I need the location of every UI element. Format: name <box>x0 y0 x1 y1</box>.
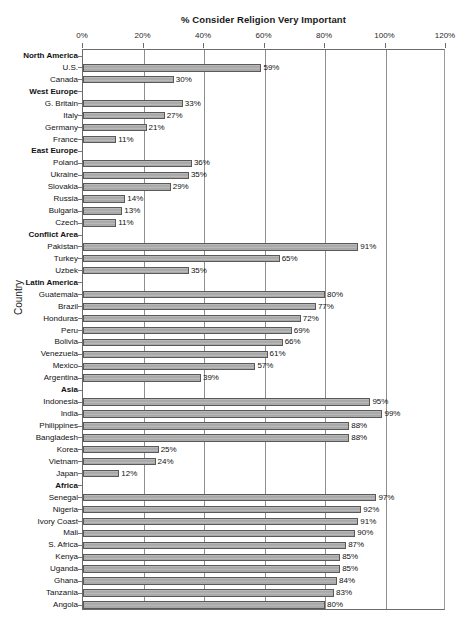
bar-value-label: 88% <box>351 420 367 431</box>
country-bar-row: Uzbek35% <box>0 264 467 276</box>
country-bar-row: India99% <box>0 407 467 419</box>
country-bar-row: Czech11% <box>0 216 467 228</box>
country-bar-row: Italy27% <box>0 109 467 121</box>
y-tick-mark <box>78 56 82 57</box>
bar-value-label: 35% <box>191 265 207 276</box>
country-bar-row: Mexico57% <box>0 359 467 371</box>
bar-value-label: 14% <box>127 193 143 204</box>
bar-value-label: 88% <box>351 432 367 443</box>
bar-value-label: 77% <box>318 301 334 312</box>
region-group-row: Latin America <box>0 276 467 288</box>
bar-value-label: 92% <box>363 504 379 515</box>
y-tick-mark <box>78 402 82 403</box>
bar-value-label: 91% <box>360 241 376 252</box>
bar <box>83 327 292 334</box>
bar-value-label: 30% <box>176 74 192 85</box>
x-tick-mark <box>385 43 386 48</box>
bar <box>83 530 355 537</box>
bar-value-label: 29% <box>173 181 189 192</box>
region-group-row: Africa <box>0 479 467 491</box>
y-tick-mark <box>78 485 82 486</box>
country-bar-row: Russia14% <box>0 192 467 204</box>
x-tick-mark <box>203 43 204 48</box>
country-label: Kenya <box>55 551 78 562</box>
country-label: Korea <box>57 444 78 455</box>
country-label: Philippines <box>39 420 78 431</box>
y-tick-mark <box>78 139 82 140</box>
bar <box>83 422 349 429</box>
country-bar-row: Mali90% <box>0 526 467 538</box>
bar-value-label: 11% <box>118 217 133 228</box>
bar-value-label: 21% <box>149 122 165 133</box>
y-tick-mark <box>78 426 82 427</box>
y-tick-mark <box>78 127 82 128</box>
country-label: Honduras <box>43 313 78 324</box>
y-tick-mark <box>78 342 82 343</box>
country-bar-row: G. Britain33% <box>0 97 467 109</box>
bar <box>83 554 340 561</box>
bar <box>83 542 346 549</box>
x-tick-mark <box>143 43 144 48</box>
y-tick-mark <box>78 318 82 319</box>
country-label: Guatemala <box>39 289 78 300</box>
y-tick-mark <box>78 67 82 68</box>
bar-value-label: 66% <box>285 336 301 347</box>
country-bar-row: Senegal97% <box>0 491 467 503</box>
bar <box>83 506 361 513</box>
country-label: Bulgaria <box>49 205 78 216</box>
country-bar-row: Kenya85% <box>0 550 467 562</box>
bar-value-label: 27% <box>167 110 183 121</box>
bar <box>83 183 171 190</box>
bar <box>83 255 280 262</box>
country-bar-row: Slovakia29% <box>0 180 467 192</box>
bar-value-label: 80% <box>327 289 343 300</box>
region-group-row: East Europe <box>0 144 467 156</box>
y-tick-mark <box>78 557 82 558</box>
bar <box>83 577 337 584</box>
y-tick-mark <box>78 545 82 546</box>
region-label: East Europe <box>31 145 78 156</box>
country-label: Ukraine <box>50 169 78 180</box>
bar <box>83 410 382 417</box>
y-tick-mark <box>78 533 82 534</box>
bar <box>83 446 159 453</box>
country-label: Senegal <box>49 492 78 503</box>
bar <box>83 100 183 107</box>
region-label: Africa <box>55 480 78 491</box>
x-tick-mark <box>82 43 83 48</box>
country-label: G. Britain <box>45 98 78 109</box>
bar <box>83 470 119 477</box>
bar <box>83 458 156 465</box>
bar-value-label: 69% <box>294 325 310 336</box>
chart-title: % Consider Religion Very Important <box>82 14 445 25</box>
y-tick-mark <box>78 270 82 271</box>
country-label: Tanzania <box>46 587 78 598</box>
country-label: France <box>53 134 78 145</box>
religion-importance-bar-chart: % Consider Religion Very Important Count… <box>0 0 467 624</box>
country-label: Angola <box>53 599 78 610</box>
bar-value-label: 80% <box>327 599 343 610</box>
y-tick-mark <box>78 258 82 259</box>
y-tick-mark <box>78 521 82 522</box>
country-bar-row: Korea25% <box>0 443 467 455</box>
region-label: Asia <box>61 384 78 395</box>
country-bar-row: Indonesia95% <box>0 395 467 407</box>
bar <box>83 243 358 250</box>
bar <box>83 195 125 202</box>
country-bar-row: Tanzania83% <box>0 586 467 598</box>
bar-value-label: 57% <box>257 360 273 371</box>
region-label: West Europe <box>29 86 78 97</box>
y-tick-mark <box>78 91 82 92</box>
bar <box>83 398 370 405</box>
country-label: Argentina <box>44 372 78 383</box>
y-tick-mark <box>78 605 82 606</box>
bar <box>83 207 122 214</box>
y-tick-mark <box>78 330 82 331</box>
y-tick-mark <box>78 390 82 391</box>
bar <box>83 518 358 525</box>
bar-value-label: 61% <box>270 348 286 359</box>
x-tick-label: 100% <box>374 31 394 40</box>
bar <box>83 315 301 322</box>
country-bar-row: Philippines88% <box>0 419 467 431</box>
bar <box>83 160 192 167</box>
